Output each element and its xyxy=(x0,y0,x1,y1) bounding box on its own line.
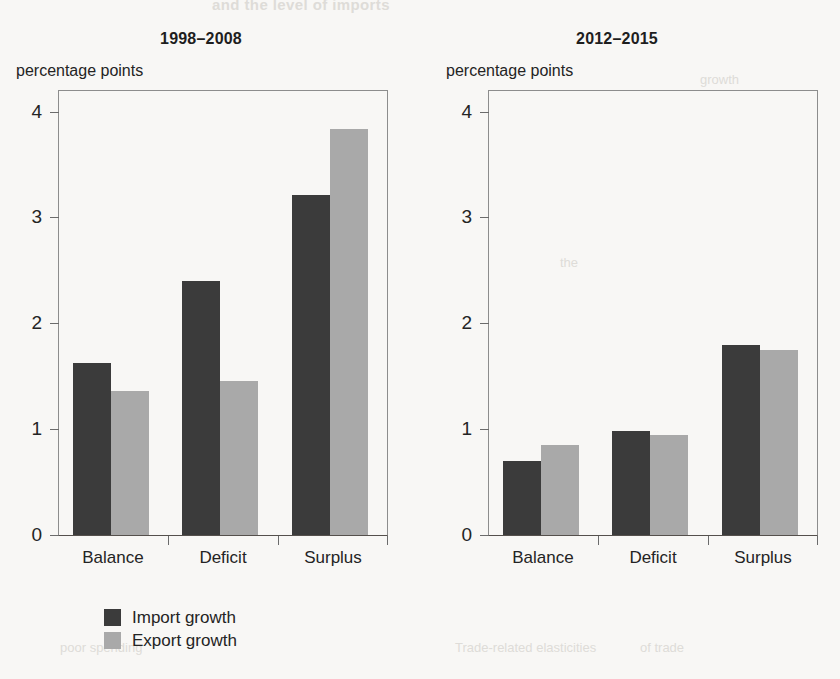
x-label-deficit: Deficit xyxy=(598,548,708,568)
y-tick-label: 2 xyxy=(461,313,472,332)
chart-panel-2012-2015: 2012–2015 percentage points 0 1 2 xyxy=(420,30,840,545)
y-tick-line xyxy=(50,429,59,430)
bar-export-balance xyxy=(541,445,579,535)
bar-export-deficit xyxy=(650,435,688,535)
legend-swatch-import-icon xyxy=(104,609,121,626)
y-axis-unit-label: percentage points xyxy=(446,62,840,80)
panel-title: 1998–2008 xyxy=(0,30,420,48)
bleed-through-bottom-right-text: of trade xyxy=(640,640,684,655)
plot-area: 0 1 2 3 4 xyxy=(58,90,388,536)
bar-group-surplus xyxy=(708,91,817,535)
x-axis-ticks xyxy=(58,536,388,546)
x-label-balance: Balance xyxy=(58,548,168,568)
bar-groups xyxy=(489,91,817,535)
chart-panels: 1998–2008 percentage points 0 1 2 xyxy=(0,30,840,545)
y-tick-line xyxy=(480,217,489,218)
legend-item-import-growth: Import growth xyxy=(104,606,237,629)
y-tick-line xyxy=(480,323,489,324)
bar-import-deficit xyxy=(182,281,220,535)
y-tick-label: 4 xyxy=(461,102,472,121)
plot-area: 0 1 2 3 4 xyxy=(488,90,818,536)
x-tick-1 xyxy=(598,536,599,545)
y-tick-label: 3 xyxy=(31,207,42,226)
bar-group-balance xyxy=(489,91,598,535)
bar-group-balance xyxy=(59,91,168,535)
bleed-through-bottom-center-text: Trade-related elasticities xyxy=(455,640,596,655)
bar-export-surplus xyxy=(760,350,798,535)
y-tick-line xyxy=(50,323,59,324)
legend-label-export: Export growth xyxy=(132,632,237,649)
bleed-through-top-text: and the level of imports xyxy=(212,0,390,13)
bar-groups xyxy=(59,91,387,535)
x-tick-1 xyxy=(168,536,169,545)
x-axis-labels: Balance Deficit Surplus xyxy=(488,548,818,568)
y-tick-label: 0 xyxy=(31,525,42,544)
y-tick-label: 1 xyxy=(31,419,42,438)
chart-legend: Import growth Export growth xyxy=(104,606,237,652)
legend-label-import: Import growth xyxy=(132,609,236,626)
bar-group-deficit xyxy=(168,91,277,535)
x-tick-2 xyxy=(278,536,279,545)
y-tick-label: 2 xyxy=(31,313,42,332)
chart-panel-1998-2008: 1998–2008 percentage points 0 1 2 xyxy=(0,30,420,545)
panel-title: 2012–2015 xyxy=(420,30,840,48)
plot-wrapper: 0 1 2 3 4 xyxy=(420,90,840,545)
figure-page: and the level of imports growth the poor… xyxy=(0,0,840,679)
x-tick-2 xyxy=(708,536,709,545)
x-axis-ticks xyxy=(488,536,818,546)
y-axis-unit-label: percentage points xyxy=(16,62,420,80)
bar-group-deficit xyxy=(598,91,707,535)
bar-export-surplus xyxy=(330,129,368,535)
y-tick-line xyxy=(50,112,59,113)
bar-import-deficit xyxy=(612,431,650,535)
x-tick-3 xyxy=(817,536,818,545)
bar-group-surplus xyxy=(278,91,387,535)
x-tick-3 xyxy=(387,536,388,545)
y-tick-line xyxy=(50,217,59,218)
x-label-balance: Balance xyxy=(488,548,598,568)
legend-item-export-growth: Export growth xyxy=(104,629,237,652)
y-tick-line xyxy=(480,112,489,113)
bar-import-surplus xyxy=(292,195,330,535)
y-tick-label: 1 xyxy=(461,419,472,438)
y-tick-label: 0 xyxy=(461,525,472,544)
legend-swatch-export-icon xyxy=(104,632,121,649)
x-axis-labels: Balance Deficit Surplus xyxy=(58,548,388,568)
bar-import-balance xyxy=(503,461,541,535)
bar-export-balance xyxy=(111,391,149,535)
y-tick-label: 4 xyxy=(31,102,42,121)
y-tick-label: 3 xyxy=(461,207,472,226)
x-label-surplus: Surplus xyxy=(278,548,388,568)
y-tick-line xyxy=(480,429,489,430)
x-label-surplus: Surplus xyxy=(708,548,818,568)
bar-import-surplus xyxy=(722,345,760,535)
bar-export-deficit xyxy=(220,381,258,535)
x-label-deficit: Deficit xyxy=(168,548,278,568)
plot-wrapper: 0 1 2 3 4 xyxy=(0,90,420,545)
bar-import-balance xyxy=(73,363,111,535)
